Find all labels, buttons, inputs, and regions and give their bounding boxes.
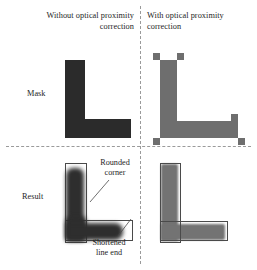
opc-serif-bottom-right: [238, 138, 245, 145]
column-header-with-opc: With optical proximity correction: [147, 11, 251, 32]
opc-comparison-figure: Without optical proximity correction Wit…: [0, 0, 257, 270]
annotation-rounded-corner-line2: corner: [88, 168, 142, 178]
opc-inner-corner-notch: [177, 113, 185, 121]
column-header-without-opc: Without optical proximity correction: [38, 11, 134, 32]
annotation-rounded-corner: Rounded corner: [88, 158, 142, 178]
mask-shape-with-opc: [160, 60, 238, 138]
opc-serif-right-line-end: [231, 114, 238, 121]
annotation-rounded-corner-line1: Rounded: [88, 158, 142, 168]
horizontal-divider: [6, 146, 251, 147]
opc-mask-horizontal-bar: [160, 121, 238, 138]
opc-serif-top-right: [177, 53, 184, 60]
mask-horizontal-bar: [65, 119, 131, 138]
row-label-result: Result: [22, 192, 43, 202]
vertical-divider: [140, 6, 141, 264]
row-label-mask: Mask: [27, 89, 45, 99]
annotation-shortened-line-end: Shortened line end: [76, 238, 142, 258]
annotation-shortened-line2: line end: [76, 248, 142, 258]
mask-shape-without-opc: [65, 60, 131, 138]
opc-serif-top-left: [153, 53, 160, 60]
annotation-shortened-line1: Shortened: [76, 238, 142, 248]
result-shape-with-opc: [160, 163, 226, 241]
opc-serif-bottom-left: [153, 138, 160, 145]
corrected-outline-horizontal: [160, 221, 228, 241]
